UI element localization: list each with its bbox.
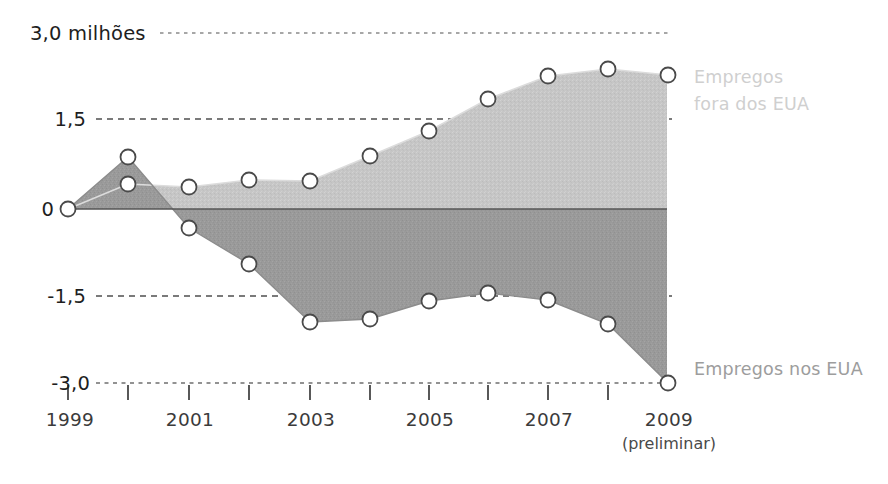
x-axis-label-2003: 2003	[287, 409, 335, 430]
data-point-upper-2005	[422, 124, 437, 139]
data-point-upper-2000	[121, 177, 136, 192]
data-point-lower-2008	[601, 317, 616, 332]
legend-upper-line2: fora dos EUA	[694, 94, 809, 114]
x-axis-label-1999: 1999	[46, 409, 94, 430]
data-point-lower-2006	[481, 286, 496, 301]
x-axis-label-2009: 2009	[645, 409, 693, 430]
y-axis-label-neg-3: -3,0	[51, 372, 90, 395]
legend-lower-label: Empregos nos EUA	[694, 359, 863, 379]
x-axis-label-2007: 2007	[525, 409, 573, 430]
data-point-upper-2004	[363, 149, 378, 164]
data-point-lower-2005	[422, 294, 437, 309]
chart-container: 3,0 milhões 1,5 0 -1,5 -3,0 1999 2001 20…	[0, 0, 888, 484]
y-axis-label-neg-1-5: -1,5	[47, 285, 86, 308]
y-axis-label-0: 0	[41, 198, 54, 221]
data-point-lower-2000	[121, 150, 136, 165]
data-point-upper-1999	[61, 202, 76, 217]
x-axis-label-2001: 2001	[166, 409, 214, 430]
data-point-lower-2004	[363, 312, 378, 327]
data-point-lower-2001	[182, 221, 197, 236]
data-point-lower-2003	[303, 315, 318, 330]
data-point-upper-2007	[541, 69, 556, 84]
data-point-upper-2009	[661, 68, 676, 83]
data-point-upper-2001	[182, 180, 197, 195]
x-axis-note-preliminar: (preliminar)	[622, 434, 716, 453]
legend-upper-line1: Empregos	[694, 67, 783, 87]
area-chart: 3,0 milhões 1,5 0 -1,5 -3,0 1999 2001 20…	[0, 0, 888, 484]
x-axis-ticks	[68, 385, 608, 400]
data-point-upper-2008	[601, 62, 616, 77]
data-point-lower-2002	[242, 257, 257, 272]
data-point-upper-2003	[303, 174, 318, 189]
data-point-upper-2002	[242, 173, 257, 188]
x-axis-label-2005: 2005	[406, 409, 454, 430]
area-upper-foreign-jobs	[68, 69, 668, 209]
data-point-lower-2009	[661, 376, 676, 391]
y-axis-label-3-million: 3,0 milhões	[30, 22, 146, 45]
data-point-upper-2006	[481, 92, 496, 107]
data-point-lower-2007	[541, 293, 556, 308]
y-axis-label-1-5: 1,5	[54, 108, 86, 131]
